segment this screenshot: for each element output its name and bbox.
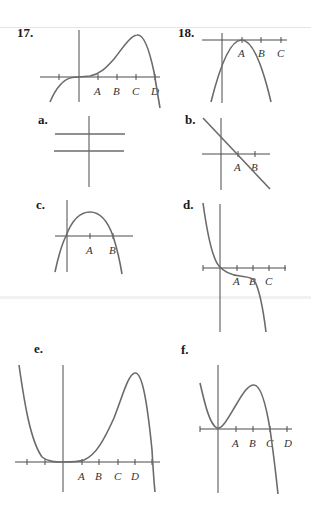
problem-17-graph: 17. A B C D: [17, 25, 160, 108]
choice-f-graph: f. A B C D: [181, 342, 292, 494]
tick-label-d: D: [283, 437, 292, 449]
problem-18-label: 18.: [178, 25, 194, 40]
choice-d-graph: d. A B C: [183, 197, 286, 332]
tick-label-d: D: [130, 470, 139, 482]
tick-label-b: B: [258, 47, 265, 59]
tick-label-c: C: [114, 470, 122, 482]
choice-a-graph: a.: [38, 112, 125, 187]
tick-label-a: A: [232, 275, 240, 287]
choice-f-label: f.: [181, 342, 189, 357]
tick-label-c: C: [132, 85, 140, 97]
tick-label-b: B: [113, 85, 120, 97]
choice-e-graph: e. A B C D: [15, 341, 160, 492]
choice-a-label: a.: [38, 112, 48, 127]
tick-label-b: B: [109, 244, 116, 256]
choice-c-graph: c. A B: [36, 197, 133, 274]
choice-b-label: b.: [185, 112, 195, 127]
tick-label-a: A: [77, 470, 85, 482]
problem-18-graph: 18. A B C: [178, 25, 287, 103]
tick-label-c: C: [265, 275, 273, 287]
choice-c-label: c.: [36, 197, 45, 212]
tick-label-b: B: [251, 161, 258, 173]
choice-e-label: e.: [34, 341, 43, 356]
tick-label-a: A: [231, 437, 239, 449]
problem-17-label: 17.: [17, 25, 33, 40]
choice-d-label: d.: [183, 197, 193, 212]
tick-label-c: C: [277, 47, 285, 59]
choice-b-graph: b. A B: [185, 112, 270, 190]
tick-label-a: A: [237, 47, 245, 59]
page: 17. A B C D 18. A B C: [0, 0, 311, 517]
tick-label-a: A: [233, 161, 241, 173]
graphs-canvas: 17. A B C D 18. A B C: [0, 0, 311, 517]
tick-label-b: B: [95, 470, 102, 482]
tick-label-b: B: [249, 437, 256, 449]
function-curve: [55, 212, 122, 274]
tick-label-a: A: [85, 244, 93, 256]
tick-label-a: A: [93, 85, 101, 97]
function-curve: [50, 35, 160, 108]
